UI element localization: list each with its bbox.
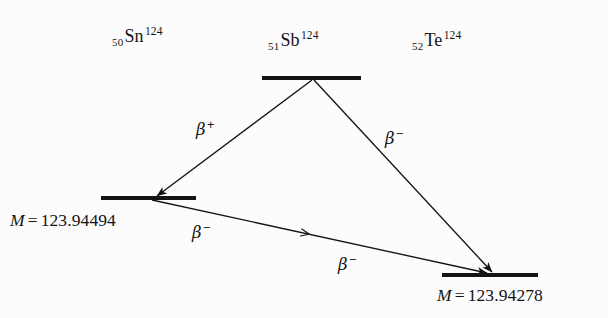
mass-label-sn: M=123.94494 — [10, 212, 116, 230]
element-symbol-sn: Sn — [123, 26, 143, 46]
beta-label-sb-to-te: β− — [385, 128, 403, 148]
transition-arrow-beta-plus-sb-to-sn — [157, 80, 312, 196]
atomic-number-sn: 50 — [112, 36, 123, 48]
mass-value-sn: 123.94494 — [41, 210, 116, 230]
beta-charge-sb-to-te: − — [395, 127, 404, 141]
beta-charge-sn-to-te-upper: − — [202, 221, 211, 235]
beta-charge-sb-to-sn: + — [206, 118, 215, 132]
element-symbol-sb: Sb — [279, 30, 299, 50]
mass-number-te: 124 — [442, 29, 461, 41]
beta-label-sn-to-te-upper: β− — [192, 222, 210, 242]
beta-label-sn-to-te-lower: β− — [338, 254, 356, 274]
decay-scheme-figure: 50Sn124 51Sb124 52Te124 M=123.94494 M=12… — [0, 0, 608, 318]
nuclide-label-sn: 50Sn124 — [112, 26, 163, 48]
nuclide-label-te: 52Te124 — [412, 30, 462, 52]
beta-symbol-sn-to-te-lower: β — [338, 255, 348, 274]
transition-arrow-beta-minus-sb-to-te — [314, 80, 492, 272]
mass-number-sb: 124 — [299, 29, 318, 41]
beta-symbol-sn-to-te-upper: β — [192, 223, 202, 242]
atomic-number-sb: 51 — [268, 40, 279, 52]
atomic-number-te: 52 — [412, 40, 423, 52]
decay-transitions-group — [152, 80, 492, 273]
beta-charge-sn-to-te-lower: − — [348, 253, 357, 267]
nuclide-label-sb: 51Sb124 — [268, 30, 319, 52]
mass-value-te: 123.94278 — [468, 285, 543, 305]
mass-symbol-te: M — [437, 285, 454, 305]
energy-levels-group — [101, 78, 538, 275]
mass-number-sn: 124 — [143, 25, 162, 37]
mass-equals-te: = — [454, 285, 468, 305]
beta-symbol-sb-to-te: β — [385, 129, 395, 148]
mass-symbol-sn: M — [10, 210, 27, 230]
beta-symbol-sb-to-sn: β — [196, 120, 206, 139]
mass-label-te: M=123.94278 — [437, 287, 543, 305]
mass-equals-sn: = — [27, 210, 41, 230]
beta-label-sb-to-sn: β+ — [196, 119, 214, 139]
element-symbol-te: Te — [423, 30, 442, 50]
